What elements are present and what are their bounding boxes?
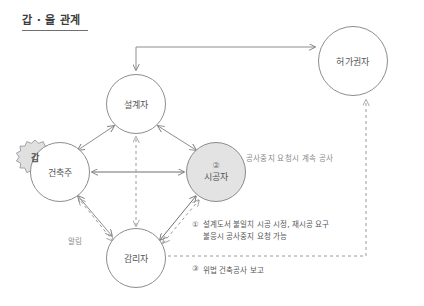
node-builder[interactable]: ② 시공자 (186, 142, 246, 202)
title-underline (22, 30, 88, 31)
node-builder-badge: ② (212, 161, 219, 171)
note-3-text: 위법 건축공사 보고 (203, 264, 264, 275)
node-authority-label: 허가권자 (336, 55, 369, 68)
node-designer-label: 설계자 (124, 98, 149, 111)
node-builder-label: 시공자 (204, 172, 229, 183)
node-designer[interactable]: 설계자 (106, 74, 166, 134)
note-3-marker: ③ (192, 264, 203, 273)
owner-starburst-label: 갑 (18, 140, 52, 174)
annotation-notify: 알림 (68, 235, 82, 246)
page-title-text: 갑 · 을 관계 (22, 14, 88, 28)
node-supervisor[interactable]: 감리자 (106, 228, 166, 288)
edge-designer-authority (136, 47, 315, 70)
note-1-line-2: 불응시 공사중지 요청 가능 (192, 231, 329, 243)
edge-supervisor-builder (160, 196, 196, 240)
page-title: 갑 · 을 관계 (22, 14, 88, 31)
owner-starburst-badge: 갑 (18, 140, 52, 174)
node-supervisor-label: 감리자 (124, 252, 149, 265)
node-authority[interactable]: 허가권자 (318, 26, 388, 96)
annotation-continue-work: 공사중지 요청시 계속 공사 (246, 152, 333, 163)
note-1-line-1: ① 설계도서 불일치 시공 시정, 재시공 요구 (192, 219, 329, 231)
annotation-note-1: ① 설계도서 불일치 시공 시정, 재시공 요구 불응시 공사중지 요청 가능 (192, 219, 329, 242)
node-builder-content: ② 시공자 (204, 161, 229, 183)
note-1-text-1: 설계도서 불일치 시공 시정, 재시공 요구 (203, 219, 329, 231)
edge-owner-supervisor (78, 196, 112, 236)
edge-owner-designer (78, 126, 114, 150)
annotation-note-3: ③ 위법 건축공사 보고 (192, 264, 264, 275)
edge-supervisor-owner-dashed (79, 199, 113, 241)
note-1-marker: ① (192, 219, 203, 231)
edge-designer-builder (158, 126, 196, 150)
